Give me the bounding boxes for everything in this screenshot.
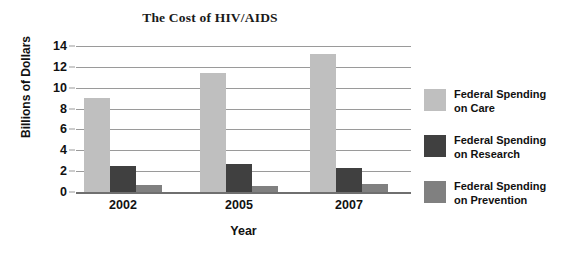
y-tick-mark-2 [69, 171, 75, 172]
legend-label-line2-1: on Research [454, 148, 546, 162]
y-tick-mark-8 [69, 108, 75, 109]
x-tick-label-2005: 2005 [200, 198, 278, 212]
bar-2007-series-1[interactable] [336, 168, 362, 192]
y-tick-label-0: 0 [60, 185, 67, 199]
y-tick-label-4: 4 [60, 143, 67, 157]
y-tick-label-12: 12 [53, 60, 67, 74]
bar-group-2002 [84, 46, 162, 192]
bar-2005-series-2[interactable] [252, 186, 278, 192]
legend-entry-2[interactable]: Federal Spendingon Prevention [424, 180, 572, 207]
y-tick-mark-0 [69, 192, 75, 193]
legend-label-2: Federal Spendingon Prevention [454, 180, 546, 207]
legend-label-line1-1: Federal Spending [454, 134, 546, 146]
y-tick-mark-10 [69, 87, 75, 88]
legend-swatch-icon-1 [424, 135, 446, 157]
legend-label-line2-0: on Care [454, 102, 546, 116]
bar-2002-series-0[interactable] [84, 98, 110, 192]
x-tick-label-2007: 2007 [310, 198, 388, 212]
bars-layer: 200220052007 [76, 46, 411, 192]
legend-swatch-icon-0 [424, 89, 446, 111]
bar-group-2005 [200, 46, 278, 192]
bar-group-2007 [310, 46, 388, 192]
bar-2007-series-2[interactable] [362, 184, 388, 192]
gridline-0 [76, 192, 411, 194]
y-tick-mark-4 [69, 150, 75, 151]
bar-2002-series-2[interactable] [136, 185, 162, 192]
bar-2005-series-1[interactable] [226, 164, 252, 192]
x-tick-label-2002: 2002 [84, 198, 162, 212]
y-tick-label-14: 14 [53, 39, 67, 53]
y-tick-mark-12 [69, 66, 75, 67]
legend-entry-0[interactable]: Federal Spendingon Care [424, 88, 572, 115]
y-tick-label-8: 8 [60, 102, 67, 116]
y-tick-mark-14 [69, 46, 75, 47]
y-tick-mark-6 [69, 129, 75, 130]
legend-entry-1[interactable]: Federal Spendingon Research [424, 134, 572, 161]
chart-title: The Cost of HIV/AIDS [0, 10, 420, 26]
y-tick-label-2: 2 [60, 164, 67, 178]
legend-label-line1-2: Federal Spending [454, 180, 546, 192]
bar-2002-series-1[interactable] [110, 166, 136, 192]
legend-swatch-icon-2 [424, 181, 446, 203]
plot-area: 02468101214 200220052007 [76, 46, 411, 192]
chart-legend: Federal Spendingon CareFederal Spendingo… [424, 88, 572, 226]
legend-label-1: Federal Spendingon Research [454, 134, 546, 161]
legend-label-line2-2: on Prevention [454, 194, 546, 208]
x-axis-title: Year [76, 224, 411, 238]
y-tick-label-10: 10 [53, 81, 67, 95]
y-tick-label-6: 6 [60, 122, 67, 136]
bar-2005-series-0[interactable] [200, 73, 226, 192]
bar-2007-series-0[interactable] [310, 54, 336, 192]
chart-figure: The Cost of HIV/AIDS Billions of Dollars… [0, 0, 572, 257]
legend-label-0: Federal Spendingon Care [454, 88, 546, 115]
y-axis-title: Billions of Dollars [19, 27, 33, 147]
legend-label-line1-0: Federal Spending [454, 88, 546, 100]
